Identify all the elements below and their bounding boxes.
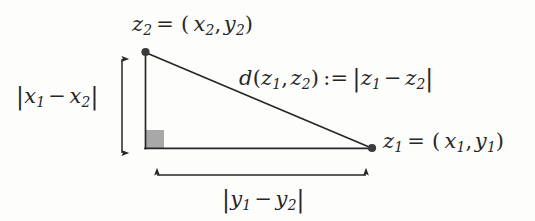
dx-term1: x	[24, 84, 36, 108]
vertex-dot-z1	[368, 144, 376, 152]
dx-bar-close: |	[90, 82, 98, 110]
distance-term1: z	[361, 66, 372, 90]
horizontal-distance-label: |y1−y2|	[222, 188, 305, 213]
distance-bar-close: |	[425, 64, 433, 92]
distance-term2: z	[405, 66, 416, 90]
distance-arg1: z	[261, 66, 272, 90]
dx-term1-subscript: 1	[36, 94, 45, 110]
dx-bar-open: |	[16, 82, 24, 110]
point-label-z2: z2= (x2,y2)	[132, 14, 253, 38]
z2-x-var: x	[194, 12, 206, 36]
point-label-z1: z1= (x1,y1)	[383, 131, 504, 155]
z1-x-var: x	[445, 129, 457, 153]
dy-term1-subscript: 1	[242, 197, 251, 213]
z1-var: z	[383, 129, 394, 153]
distance-arg2-subscript: 2	[302, 76, 311, 92]
z1-equals-paren: = (	[403, 129, 444, 153]
z1-subscript: 1	[394, 139, 403, 155]
z2-y-var: y	[224, 12, 236, 36]
dy-bar-close: |	[296, 185, 304, 213]
distance-arg1-subscript: 1	[272, 76, 281, 92]
distance-open-paren: (	[253, 66, 261, 90]
dx-minus: −	[45, 84, 70, 108]
z2-comma: ,	[214, 12, 223, 36]
z1-close-paren: )	[496, 129, 504, 153]
distance-function-name: d	[239, 66, 253, 90]
z1-comma: ,	[465, 129, 474, 153]
distance-comma: ,	[281, 66, 290, 90]
right-angle-marker	[146, 130, 164, 148]
distance-defines-symbol: :=	[319, 66, 352, 90]
distance-minus: −	[381, 66, 406, 90]
distance-close-paren: )	[311, 66, 319, 90]
distance-bar-open: |	[353, 64, 361, 92]
z2-y-subscript: 2	[236, 22, 245, 38]
dy-minus: −	[251, 187, 276, 211]
vertex-dot-z2	[141, 48, 149, 56]
z1-y-subscript: 1	[487, 139, 496, 155]
z2-var: z	[132, 12, 143, 36]
dy-term2: y	[276, 187, 288, 211]
z2-close-paren: )	[245, 12, 253, 36]
distance-diagram-figure: z2= (x2,y2) d(z1,z2):=|z1−z2| |x1−x2| z1…	[0, 0, 535, 221]
dy-term1: y	[230, 187, 242, 211]
z2-equals-paren: = (	[152, 12, 193, 36]
vertical-distance-label: |x1−x2|	[16, 85, 99, 110]
dx-term2: x	[70, 84, 82, 108]
dy-bar-open: |	[222, 185, 230, 213]
z2-subscript: 2	[143, 22, 152, 38]
distance-term1-subscript: 1	[372, 76, 381, 92]
z1-y-var: y	[475, 129, 487, 153]
distance-definition-label: d(z1,z2):=|z1−z2|	[239, 67, 433, 92]
distance-arg2: z	[291, 66, 302, 90]
